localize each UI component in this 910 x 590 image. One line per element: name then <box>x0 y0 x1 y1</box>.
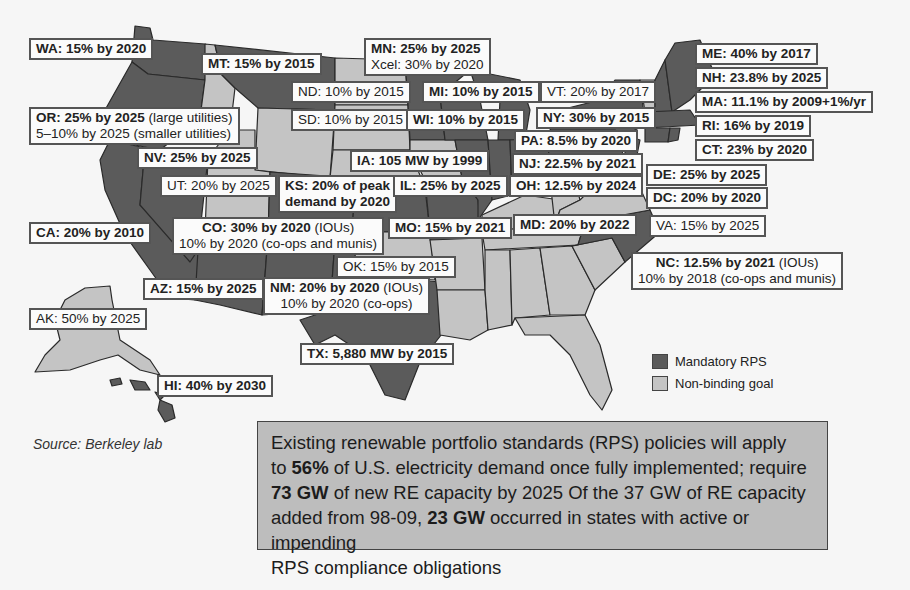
callout-line-4: added from 98-09, 23 GW occurred in stat… <box>271 505 817 555</box>
label-tx: TX: 5,880 MW by 2015 <box>300 343 454 365</box>
label-co: CO: 30% by 2020 (IOUs)10% by 2020 (co-op… <box>172 217 384 255</box>
label-nd: ND: 10% by 2015 <box>291 81 411 103</box>
non-binding-swatch <box>652 376 668 391</box>
callout-line-1: Existing renewable portfolio standards (… <box>271 430 817 455</box>
label-mn: MN: 25% by 2025Xcel: 30% by 2020 <box>364 38 491 76</box>
state-fl <box>515 315 612 410</box>
callout-line-2: to 56% of U.S. electricity demand once f… <box>271 455 817 480</box>
label-ct: CT: 23% by 2020 <box>695 139 814 161</box>
label-wi: WI: 10% by 2015 <box>406 109 525 131</box>
state-ri <box>668 128 680 142</box>
summary-callout: Existing renewable portfolio standards (… <box>257 421 828 550</box>
label-me: ME: 40% by 2017 <box>695 43 818 65</box>
label-hi: HI: 40% by 2030 <box>157 375 273 397</box>
label-mi: MI: 10% by 2015 <box>422 81 540 103</box>
source-credit: Source: Berkeley lab <box>33 436 162 452</box>
label-nv: NV: 25% by 2025 <box>137 147 258 169</box>
legend-item-mandatory: Mandatory RPS <box>652 350 773 372</box>
label-oh: OH: 12.5% by 2024 <box>509 175 643 197</box>
label-va: VA: 15% by 2025 <box>649 215 766 237</box>
label-ak: AK: 50% by 2025 <box>29 308 147 330</box>
mandatory-swatch <box>652 354 668 369</box>
label-or: OR: 25% by 2025 (large utilities)5–10% b… <box>29 107 240 145</box>
legend-label-non-binding: Non-binding goal <box>675 376 773 391</box>
callout-line-3: 73 GW of new RE capacity by 2025 Of the … <box>271 480 817 505</box>
label-ok: OK: 15% by 2015 <box>336 256 456 278</box>
callout-line-5: RPS compliance obligations <box>271 555 817 580</box>
label-md: MD: 20% by 2022 <box>513 214 637 236</box>
label-ut: UT: 20% by 2025 <box>160 175 277 197</box>
label-wa: WA: 15% by 2020 <box>29 38 153 60</box>
map-legend: Mandatory RPS Non-binding goal <box>652 350 773 394</box>
legend-label-mandatory: Mandatory RPS <box>675 354 767 369</box>
label-ca: CA: 20% by 2010 <box>29 222 151 244</box>
label-nm: NM: 20% by 2020 (IOUs)10% by 2020 (co-op… <box>263 277 430 315</box>
state-la <box>437 290 488 340</box>
label-mo: MO: 15% by 2021 <box>388 217 512 239</box>
label-ma: MA: 11.1% by 2009+1%/yr <box>695 91 873 113</box>
label-dc: DC: 20% by 2020 <box>646 187 768 209</box>
label-vt: VT: 20% by 2017 <box>540 81 656 103</box>
label-nh: NH: 23.8% by 2025 <box>695 67 828 89</box>
label-il: IL: 25% by 2025 <box>393 175 508 197</box>
state-ct <box>645 128 670 142</box>
label-ny: NY: 30% by 2015 <box>536 107 656 129</box>
label-nc: NC: 12.5% by 2021 (IOUs)10% by 2018 (co-… <box>631 252 843 290</box>
label-mt: MT: 15% by 2015 <box>201 53 322 75</box>
label-ks: KS: 20% of peakdemand by 2020 <box>278 175 397 213</box>
label-ia: IA: 105 MW by 1999 <box>350 150 489 172</box>
label-nj: NJ: 22.5% by 2021 <box>512 153 643 175</box>
label-pa: PA: 8.5% by 2020 <box>514 130 638 152</box>
state-ms <box>485 250 512 330</box>
label-az: AZ: 15% by 2025 <box>143 278 264 300</box>
label-ri: RI: 16% by 2019 <box>695 115 811 137</box>
legend-item-non-binding: Non-binding goal <box>652 372 773 394</box>
label-de: DE: 25% by 2025 <box>646 164 767 186</box>
label-sd: SD: 10% by 2015 <box>291 109 410 131</box>
state-ak <box>35 286 160 375</box>
